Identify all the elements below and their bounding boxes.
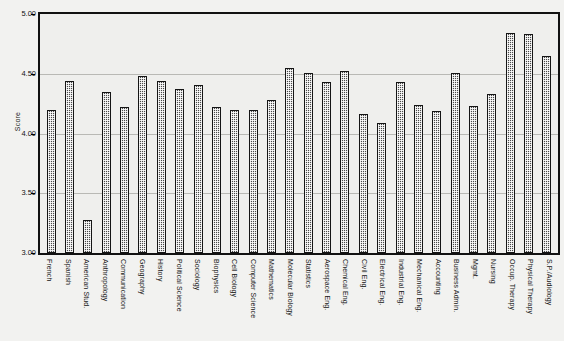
- bar[interactable]: [285, 68, 294, 253]
- bar[interactable]: [65, 81, 74, 253]
- bar-slot: [391, 14, 409, 253]
- bar[interactable]: [506, 33, 515, 253]
- x-label-slot: Industrial Eng.: [392, 257, 411, 341]
- x-label-slot: Mechanical Eng.: [410, 257, 429, 341]
- x-tick-label: Industrial Eng.: [397, 259, 404, 305]
- bars-layer: [40, 14, 558, 253]
- x-label-slot: Civil Eng.: [355, 257, 374, 341]
- bar-slot: [336, 14, 354, 253]
- x-tick-label: Aerospace Eng.: [323, 259, 330, 310]
- bar[interactable]: [194, 85, 203, 253]
- x-label-slot: French: [40, 257, 59, 341]
- bar-slot: [372, 14, 390, 253]
- x-axis-tick-labels: FrenchSpanishAmerican Stud.AnthropologyC…: [38, 257, 560, 341]
- bar[interactable]: [83, 220, 92, 253]
- x-label-slot: Cell Biology: [225, 257, 244, 341]
- y-tick-mark: [31, 134, 35, 135]
- x-tick-label: Electrical Eng.: [379, 259, 386, 305]
- bar-slot: [446, 14, 464, 253]
- bar[interactable]: [451, 73, 460, 253]
- x-tick-label: Communication: [120, 259, 127, 309]
- bar-slot: [428, 14, 446, 253]
- bar[interactable]: [249, 110, 258, 253]
- x-label-slot: Nursing: [484, 257, 503, 341]
- bar[interactable]: [175, 89, 184, 253]
- bar-slot: [60, 14, 78, 253]
- bar[interactable]: [322, 82, 331, 253]
- x-label-slot: Occup. Therapy: [503, 257, 522, 341]
- x-label-slot: Chemical Eng.: [336, 257, 355, 341]
- x-label-slot: Computer Science: [244, 257, 263, 341]
- bar[interactable]: [230, 110, 239, 253]
- x-tick-label: Occup. Therapy: [508, 259, 515, 310]
- x-label-slot: Molecular Biology: [281, 257, 300, 341]
- bar[interactable]: [157, 81, 166, 253]
- x-label-slot: Sociology: [188, 257, 207, 341]
- x-label-slot: Physical Therapy: [521, 257, 540, 341]
- bar[interactable]: [377, 123, 386, 253]
- x-tick-label: Physical Therapy: [527, 259, 534, 314]
- bar[interactable]: [340, 71, 349, 253]
- bar[interactable]: [432, 111, 441, 253]
- x-tick-label: S.P./Audiology: [545, 259, 552, 305]
- x-tick-label: Biophysics: [212, 259, 219, 293]
- x-tick-label: Business Admin.: [453, 259, 460, 312]
- bar[interactable]: [414, 105, 423, 253]
- bar[interactable]: [487, 94, 496, 253]
- bar-slot: [189, 14, 207, 253]
- bar-slot: [262, 14, 280, 253]
- x-tick-label: Mechanical Eng.: [416, 259, 423, 312]
- x-label-slot: Biophysics: [207, 257, 226, 341]
- bar-slot: [281, 14, 299, 253]
- x-label-slot: S.P./Audiology: [540, 257, 559, 341]
- x-label-slot: Spanish: [59, 257, 78, 341]
- bar-slot: [97, 14, 115, 253]
- bar-slot: [152, 14, 170, 253]
- bar[interactable]: [396, 82, 405, 253]
- x-label-slot: Political Science: [170, 257, 189, 341]
- y-tick-mark: [31, 14, 35, 15]
- x-tick-label: Spanish: [64, 259, 71, 285]
- x-tick-label: Sociology: [194, 259, 201, 290]
- x-label-slot: Statistics: [299, 257, 318, 341]
- bar[interactable]: [359, 114, 368, 253]
- x-label-slot: Anthropology: [96, 257, 115, 341]
- x-tick-label: Mgmt.: [471, 259, 478, 279]
- x-label-slot: Geography: [133, 257, 152, 341]
- bar-slot: [409, 14, 427, 253]
- bar[interactable]: [138, 76, 147, 253]
- x-tick-label: Cell Biology: [231, 259, 238, 297]
- bar-slot: [519, 14, 537, 253]
- bar[interactable]: [47, 110, 56, 253]
- bar[interactable]: [120, 107, 129, 253]
- x-tick-label: Computer Science: [249, 259, 256, 318]
- bar[interactable]: [102, 92, 111, 253]
- x-tick-label: Geography: [138, 259, 145, 295]
- bar-slot: [115, 14, 133, 253]
- x-tick-label: Statistics: [305, 259, 312, 288]
- bar-slot: [501, 14, 519, 253]
- x-tick-label: History: [157, 259, 164, 281]
- x-tick-label: Civil Eng.: [360, 259, 367, 290]
- x-tick-label: Political Science: [175, 259, 182, 312]
- x-label-slot: History: [151, 257, 170, 341]
- bar-slot: [538, 14, 556, 253]
- y-tick-mark: [31, 253, 35, 254]
- y-tick-mark: [31, 193, 35, 194]
- bar[interactable]: [469, 106, 478, 253]
- x-label-slot: Business Admin.: [447, 257, 466, 341]
- plot-area: [38, 12, 560, 255]
- x-tick-label: Anthropology: [101, 259, 108, 301]
- x-tick-label: Nursing: [490, 259, 497, 284]
- bar[interactable]: [267, 100, 276, 253]
- bar-slot: [464, 14, 482, 253]
- bar[interactable]: [524, 34, 533, 253]
- bar[interactable]: [212, 107, 221, 253]
- y-axis-tick-labels: 3.003.504.004.505.00: [0, 0, 36, 341]
- bar-slot: [317, 14, 335, 253]
- x-tick-label: Molecular Biology: [286, 259, 293, 316]
- x-label-slot: Aerospace Eng.: [318, 257, 337, 341]
- bar-slot: [483, 14, 501, 253]
- bar[interactable]: [304, 73, 313, 253]
- bar[interactable]: [542, 56, 551, 253]
